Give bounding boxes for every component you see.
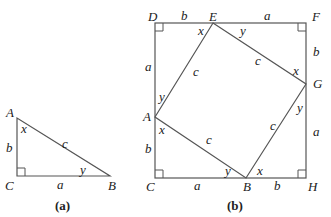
- vertex-e-label: E: [208, 9, 217, 24]
- vertex-g-label: G: [313, 76, 323, 91]
- angle-g-y-label: y: [295, 100, 303, 115]
- right-angle-marker-c: [17, 168, 25, 176]
- figure-b: D E F G H B C A b a b a b a b a c c c c …: [142, 8, 323, 213]
- side-ef-label: a: [264, 8, 271, 23]
- side-ad-label: a: [145, 59, 152, 74]
- angle-b-y-label: y: [223, 163, 231, 178]
- right-angle-marker-f: [298, 23, 306, 31]
- vertex-c-label: C: [5, 178, 14, 193]
- angle-a-y-label: y: [157, 89, 165, 104]
- right-angle-marker-h: [298, 170, 306, 178]
- vertex-d-label: D: [147, 9, 158, 24]
- vertex-f-label: F: [311, 9, 321, 24]
- angle-a-x-label: x: [158, 122, 165, 137]
- angle-e-y-label: y: [238, 23, 246, 38]
- right-angle-marker-d: [155, 23, 163, 31]
- side-gb-label: c: [270, 118, 276, 133]
- side-ba-label: c: [206, 132, 212, 147]
- angle-y-label: y: [78, 162, 86, 177]
- vertex-a-label: A: [5, 105, 14, 120]
- side-cb-label: a: [194, 178, 201, 193]
- caption-b: (b): [227, 198, 243, 213]
- side-eg-label: c: [255, 53, 261, 68]
- pythagorean-diagram: A C B b a c x y (a) D E F G H B C A b a …: [0, 0, 331, 217]
- caption-a: (a): [55, 198, 70, 213]
- angle-g-x-label: x: [292, 63, 299, 78]
- vertex-b-label: B: [243, 179, 251, 194]
- angle-x-label: x: [20, 121, 27, 136]
- side-gh-label: a: [313, 124, 320, 139]
- side-ae-label: c: [193, 64, 199, 79]
- figure-a: A C B b a c x y (a): [5, 105, 116, 213]
- angle-b-x-label: x: [256, 163, 263, 178]
- side-bh-label: b: [274, 178, 281, 193]
- side-c-label: c: [62, 136, 68, 151]
- vertex-a-label: A: [142, 109, 151, 124]
- angle-e-x-label: x: [197, 23, 204, 38]
- inner-square-egba: [155, 23, 306, 178]
- side-fg-label: b: [313, 44, 320, 59]
- vertex-h-label: H: [307, 179, 318, 194]
- vertex-c-label: C: [146, 179, 155, 194]
- vertex-b-label: B: [108, 178, 116, 193]
- side-de-label: b: [181, 8, 188, 23]
- side-ca-label: b: [145, 141, 152, 156]
- side-b-label: b: [6, 140, 13, 155]
- outer-square-dfhc: [155, 23, 306, 178]
- right-angle-marker-c: [155, 170, 163, 178]
- side-a-label: a: [57, 177, 64, 192]
